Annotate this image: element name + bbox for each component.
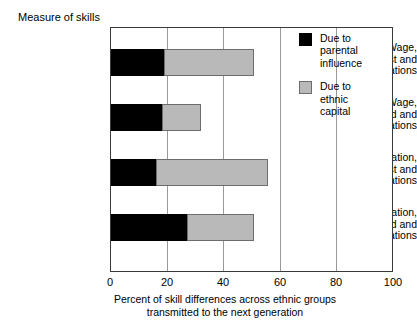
bar-segment-ethnic[interactable]	[187, 214, 254, 241]
legend-label-parental: Due to parental influence	[320, 32, 391, 69]
legend-label-line2: ethnic	[320, 93, 391, 105]
legend-label-line3: influence	[320, 57, 391, 69]
xtick-20: 20	[147, 276, 187, 289]
gridline-60	[280, 28, 281, 271]
legend-entry-parental[interactable]: Due to parental influence	[299, 32, 391, 69]
legend-label-line3: capital	[320, 105, 391, 117]
chart-title: Measure of skills	[18, 11, 100, 24]
chart-figure: Measure of skills Wage, between 1st and …	[0, 0, 417, 330]
legend-swatch-icon	[299, 81, 312, 94]
legend-label-ethnic: Due to ethnic capital	[320, 80, 391, 117]
legend-label-line2: parental	[320, 44, 391, 56]
xtick-40: 40	[203, 276, 243, 289]
x-axis-title-line2: transmitted to the next generation	[60, 306, 390, 319]
x-axis-title: Percent of skill differences across ethn…	[60, 293, 390, 318]
legend-swatch-icon	[299, 33, 312, 46]
bar-segment-parental[interactable]	[111, 104, 162, 131]
xtick-60: 60	[260, 276, 300, 289]
bar-segment-parental[interactable]	[111, 214, 187, 241]
legend-label-line1: Due to	[320, 80, 391, 92]
bar-segment-parental[interactable]	[111, 49, 164, 76]
bar-segment-ethnic[interactable]	[162, 104, 201, 131]
xtick-0: 0	[90, 276, 130, 289]
x-axis-title-line1: Percent of skill differences across ethn…	[60, 293, 390, 306]
chart-legend: Due to parental influence Due to ethnic …	[299, 32, 391, 128]
bar-segment-ethnic[interactable]	[164, 49, 254, 76]
bar-segment-parental[interactable]	[111, 159, 156, 186]
legend-entry-ethnic[interactable]: Due to ethnic capital	[299, 80, 391, 117]
xtick-80: 80	[316, 276, 356, 289]
xtick-100: 100	[373, 276, 413, 289]
bar-segment-ethnic[interactable]	[156, 159, 268, 186]
legend-label-line1: Due to	[320, 32, 391, 44]
